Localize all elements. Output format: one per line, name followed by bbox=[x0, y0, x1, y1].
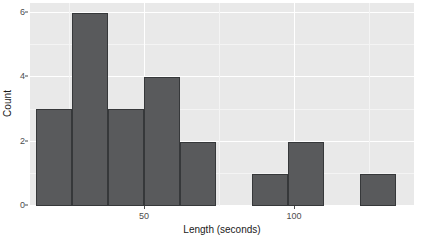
y-tick-mark-6 bbox=[25, 11, 28, 12]
x-axis-title: Length (seconds) bbox=[30, 224, 414, 235]
y-tick-label-0: 0 bbox=[14, 200, 25, 210]
x-tick-mark-50 bbox=[144, 206, 145, 209]
y-tick-mark-2 bbox=[25, 140, 28, 141]
y-tick-mark-0 bbox=[25, 205, 28, 206]
histogram-bar bbox=[36, 109, 72, 206]
histogram-bar bbox=[72, 13, 108, 207]
histogram-bar bbox=[288, 142, 324, 207]
y-tick-mark-4 bbox=[25, 76, 28, 77]
y-axis-ticks: 6 4 2 0 bbox=[14, 0, 25, 206]
x-tick-label-50: 50 bbox=[139, 211, 149, 221]
x-axis-ticks: 50 100 bbox=[30, 206, 414, 226]
gridline-minor-x-75 bbox=[219, 3, 220, 206]
x-tick-label-100: 100 bbox=[286, 211, 301, 221]
y-tick-label-4: 4 bbox=[14, 71, 25, 81]
histogram-figure: Count 6 4 2 0 50 bbox=[0, 0, 429, 244]
histogram-bar bbox=[108, 109, 144, 206]
y-tick-label-6: 6 bbox=[14, 7, 25, 17]
plot-panel bbox=[30, 3, 414, 206]
y-axis-title-text: Count bbox=[3, 89, 14, 116]
x-tick-mark-100 bbox=[294, 206, 295, 209]
y-tick-label-2: 2 bbox=[14, 136, 25, 146]
histogram-bar bbox=[360, 174, 396, 206]
histogram-bar bbox=[252, 174, 288, 206]
histogram-bar bbox=[180, 142, 216, 207]
histogram-bar bbox=[144, 77, 180, 206]
